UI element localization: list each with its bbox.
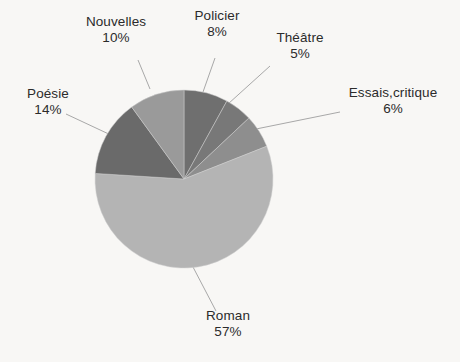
- slice-label-poesie-percent: 14%: [6, 102, 90, 118]
- pie-slices-group: [95, 90, 273, 268]
- leader-line-essais: [256, 112, 340, 129]
- slice-label-nouvelles-name: Nouvelles: [68, 14, 164, 30]
- leader-line-policier: [203, 58, 215, 92]
- slice-label-essais-critique-percent: 6%: [330, 101, 456, 117]
- slice-label-poesie-name: Poésie: [6, 86, 90, 102]
- slice-label-roman-name: Roman: [186, 308, 270, 324]
- slice-label-theatre-percent: 5%: [258, 46, 342, 62]
- slice-label-nouvelles-percent: 10%: [68, 30, 164, 46]
- slice-label-poesie: Poésie 14%: [6, 86, 90, 118]
- slice-label-roman: Roman 57%: [186, 308, 270, 340]
- slice-label-policier-percent: 8%: [178, 24, 256, 40]
- slice-label-theatre-name: Théâtre: [258, 30, 342, 46]
- leader-line-nouvelles: [138, 60, 150, 89]
- slice-label-policier: Policier 8%: [178, 8, 256, 40]
- slice-label-essais-critique-name: Essais,critique: [330, 85, 456, 101]
- slice-label-theatre: Théâtre 5%: [258, 30, 342, 62]
- slice-label-policier-name: Policier: [178, 8, 256, 24]
- pie-chart-figure: Nouvelles 10% Policier 8% Théâtre 5% Ess…: [0, 0, 460, 362]
- leader-line-roman: [193, 267, 216, 311]
- slice-label-roman-percent: 57%: [186, 324, 270, 340]
- slice-label-nouvelles: Nouvelles 10%: [68, 14, 164, 46]
- slice-label-essais-critique: Essais,critique 6%: [330, 85, 456, 117]
- leader-line-theatre: [228, 66, 270, 104]
